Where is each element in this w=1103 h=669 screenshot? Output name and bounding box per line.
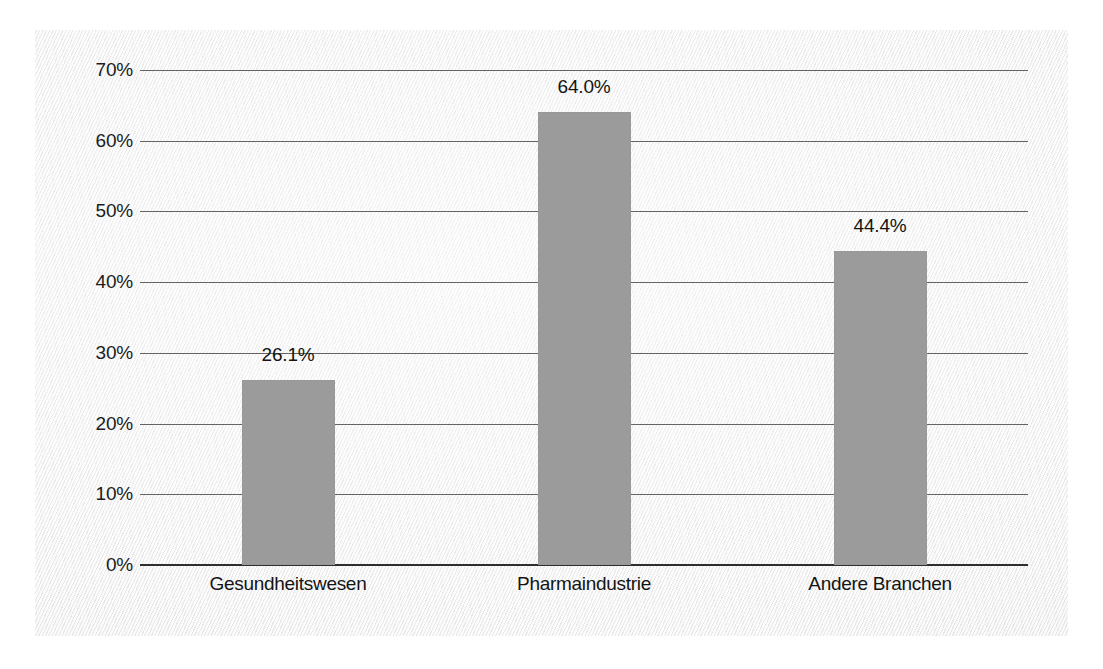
gridline	[140, 70, 1028, 71]
y-axis-tick-label: 20%	[63, 413, 133, 435]
chart-panel: 70%60%50%40%30%20%10%0% 26.1%64.0%44.4% …	[35, 30, 1068, 636]
y-axis-tick-label: 50%	[63, 200, 133, 222]
bar-value-label: 26.1%	[208, 344, 368, 366]
x-axis: GesundheitswesenPharmaindustrieAndere Br…	[140, 573, 1028, 613]
x-axis-category-label: Andere Branchen	[750, 573, 1010, 595]
y-axis-tick-label: 40%	[63, 271, 133, 293]
chart-page: 70%60%50%40%30%20%10%0% 26.1%64.0%44.4% …	[0, 0, 1103, 669]
bar[interactable]	[834, 251, 927, 565]
bar[interactable]	[242, 380, 335, 565]
y-axis: 70%60%50%40%30%20%10%0%	[55, 70, 133, 565]
y-axis-tick-label: 0%	[63, 554, 133, 576]
bar[interactable]	[538, 112, 631, 565]
y-axis-tick-label: 70%	[63, 59, 133, 81]
x-axis-category-label: Gesundheitswesen	[158, 573, 418, 595]
bar-value-label: 44.4%	[800, 215, 960, 237]
x-axis-category-label: Pharmaindustrie	[454, 573, 714, 595]
plot-area: 26.1%64.0%44.4%	[140, 70, 1028, 565]
y-axis-tick-label: 60%	[63, 130, 133, 152]
y-axis-tick-label: 10%	[63, 483, 133, 505]
bar-value-label: 64.0%	[504, 76, 664, 98]
y-axis-tick-label: 30%	[63, 342, 133, 364]
